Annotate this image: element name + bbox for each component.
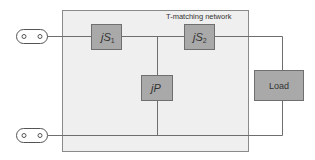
connector-icon <box>17 129 48 143</box>
input-port-top[interactable] <box>17 30 48 44</box>
load-label: Load <box>269 81 289 91</box>
connector-icon <box>17 30 48 44</box>
input-port-bottom[interactable] <box>17 129 48 143</box>
network-title: T-matching network <box>166 12 232 21</box>
component-js2[interactable]: jS2 <box>185 25 215 50</box>
t-matching-network-diagram: T-matching network jS1 jS2 jP Load <box>0 0 315 160</box>
component-load[interactable]: Load <box>255 71 304 101</box>
terminal-pin-icon <box>38 134 42 138</box>
terminal-pin-icon <box>38 35 42 39</box>
component-jp[interactable]: jP <box>142 76 173 101</box>
jp-label: jP <box>149 82 161 94</box>
component-js1[interactable]: jS1 <box>92 25 122 50</box>
terminal-pin-icon <box>22 35 26 39</box>
terminal-pin-icon <box>22 134 26 138</box>
